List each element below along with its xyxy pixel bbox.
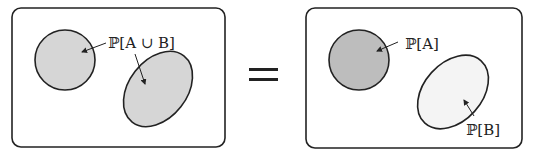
probability-a-label: ℙ[A] bbox=[405, 35, 439, 53]
left-panel: ℙ[A ∪ B] bbox=[12, 8, 225, 147]
equals-sign bbox=[249, 68, 278, 81]
set-a-circle bbox=[329, 30, 389, 90]
right-panel: ℙ[A] ℙ[B] bbox=[306, 8, 522, 148]
union-probability-label: ℙ[A ∪ B] bbox=[108, 34, 175, 52]
set-a-circle bbox=[35, 30, 95, 90]
venn-diagram: ℙ[A ∪ B] ℙ[A] ℙ[B] bbox=[0, 0, 536, 159]
probability-b-label: ℙ[B] bbox=[466, 121, 500, 139]
